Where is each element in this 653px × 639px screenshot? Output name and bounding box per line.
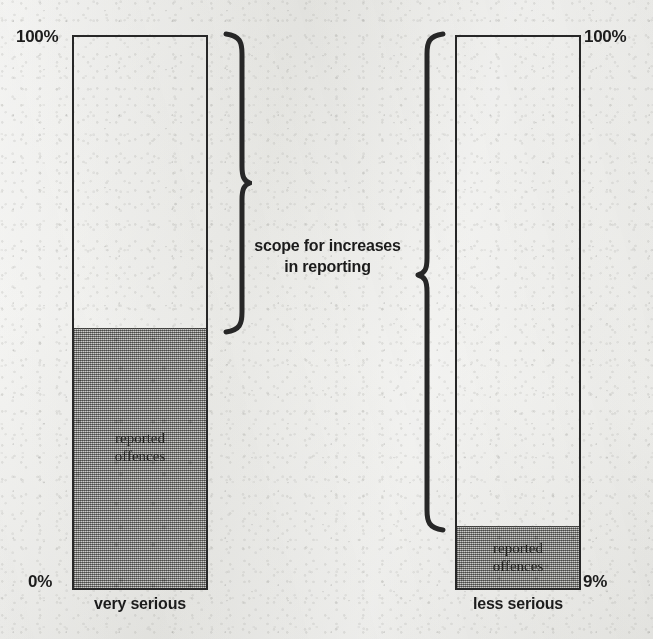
category-label-less-serious: less serious bbox=[440, 595, 596, 613]
axis-label-right-bottom: 9% bbox=[583, 572, 607, 592]
scope-brace-left bbox=[212, 30, 252, 336]
fill-label-line1: reported bbox=[74, 429, 206, 447]
axis-label-left-bottom: 0% bbox=[28, 572, 52, 592]
axis-label-left-top: 100% bbox=[16, 27, 58, 47]
bar-fill-very-serious: reported offences bbox=[74, 328, 206, 588]
bar-fill-label-very-serious: reported offences bbox=[74, 429, 206, 465]
bar-very-serious: reported offences bbox=[72, 35, 208, 590]
fill-label-line2: offences bbox=[457, 557, 579, 575]
offence-reporting-figure: reported offences 100% 0% very serious s… bbox=[0, 0, 653, 639]
scope-caption: scope for increases in reporting bbox=[240, 235, 415, 277]
bar-fill-label-less-serious: reported offences bbox=[457, 539, 579, 575]
scope-caption-line1: scope for increases bbox=[240, 235, 415, 256]
scope-brace-right bbox=[413, 30, 453, 538]
bar-less-serious: reported offences bbox=[455, 35, 581, 590]
category-label-very-serious: very serious bbox=[62, 595, 218, 613]
scope-caption-line2: in reporting bbox=[240, 256, 415, 277]
fill-label-line1: reported bbox=[457, 539, 579, 557]
bar-fill-less-serious: reported offences bbox=[457, 526, 579, 588]
axis-label-right-top: 100% bbox=[584, 27, 626, 47]
fill-label-line2: offences bbox=[74, 447, 206, 465]
